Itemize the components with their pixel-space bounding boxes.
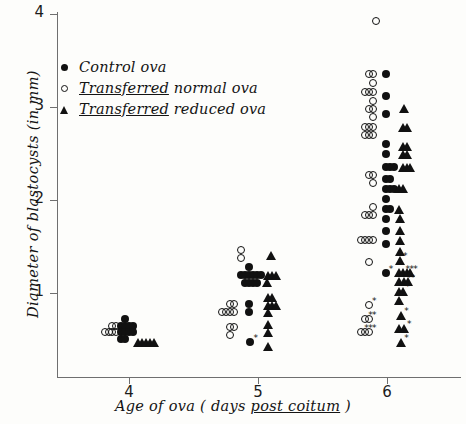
open-circle-point	[369, 131, 377, 139]
filled-triangle-point	[394, 205, 404, 214]
filled-triangle-point	[402, 150, 412, 159]
filled-circle-point	[390, 163, 398, 171]
filled-circle-point	[382, 150, 390, 158]
filled-circle-point	[382, 215, 390, 223]
open-circle-point	[369, 179, 377, 187]
filled-circle-point	[382, 240, 390, 248]
filled-triangle-point	[263, 328, 273, 337]
y-axis-title: Diameter of blastocysts (in mm)	[25, 69, 41, 319]
filled-triangle-point	[399, 104, 409, 113]
x-axis-title-post: )	[340, 398, 351, 414]
open-circle-point	[369, 97, 377, 105]
open-circle-point	[372, 17, 380, 25]
filled-circle-point	[382, 195, 390, 203]
open-circle-point	[369, 105, 377, 113]
legend: Control ova Transferred normal ova Trans…	[58, 56, 266, 119]
legend-label-control-ova: Control ova	[79, 59, 167, 75]
legend-label-transferred-reduced-ova: Transferred reduced ova	[79, 101, 266, 117]
open-circle-point	[226, 331, 234, 339]
legend-item-transferred-normal-ova: Transferred normal ova	[58, 77, 266, 98]
y-tick-label-4: 4	[22, 5, 44, 20]
y-tick-1	[50, 293, 57, 294]
filled-circle-point	[386, 205, 394, 213]
filled-circle-point	[245, 300, 253, 308]
filled-circle-point	[253, 279, 261, 287]
filled-triangle-point	[395, 226, 405, 235]
open-circle-point	[369, 203, 377, 211]
legend-item-transferred-reduced-ova: Transferred reduced ova	[58, 98, 266, 119]
filled-circle-icon	[58, 60, 72, 74]
asterisk-marker: *	[372, 324, 377, 333]
filled-circle-point	[129, 328, 137, 336]
filled-triangle-point	[395, 236, 405, 245]
asterisk-marker: *	[406, 283, 411, 292]
legend-label-transferred-normal-ova: Transferred normal ova	[79, 80, 258, 96]
filled-triangle-point	[405, 163, 415, 172]
y-tick-2	[50, 200, 57, 201]
open-circle-point	[237, 254, 245, 262]
asterisk-marker: *	[403, 252, 408, 261]
asterisk-marker: *	[372, 311, 377, 320]
asterisk-marker: *	[253, 334, 258, 343]
open-circle-point	[230, 300, 238, 308]
filled-circle-point	[382, 227, 390, 235]
filled-circle-point	[245, 263, 253, 271]
filled-triangle-point	[395, 214, 405, 223]
x-axis-title-pre: Age of ova ( days	[115, 398, 251, 414]
open-circle-point	[369, 211, 377, 219]
filled-triangle-point	[149, 338, 159, 347]
y-tick-3	[50, 107, 57, 108]
filled-circle-point	[382, 92, 390, 100]
legend-item-control-ova: Control ova	[58, 56, 266, 77]
filled-triangle-point	[402, 123, 412, 132]
asterisk-marker: *	[411, 274, 416, 283]
x-axis-title: Age of ova ( days post coitum )	[0, 398, 466, 414]
asterisk-marker: *	[404, 307, 409, 316]
filled-triangle-point	[262, 278, 272, 287]
filled-triangle-point	[266, 251, 276, 260]
open-circle-point	[369, 236, 377, 244]
open-circle-point	[369, 171, 377, 179]
filled-circle-point	[382, 70, 390, 78]
open-circle-point	[369, 79, 377, 87]
open-circle-point	[369, 113, 377, 121]
filled-triangle-point	[271, 271, 281, 280]
open-circle-point	[369, 123, 377, 131]
asterisk-marker: *	[407, 320, 412, 329]
open-circle-point	[369, 88, 377, 96]
filled-triangle-icon	[58, 102, 72, 116]
open-circle-point	[365, 258, 373, 266]
x-axis-title-underlined: post coitum	[251, 398, 341, 414]
filled-circle-point	[382, 140, 390, 148]
asterisk-marker: *	[404, 334, 409, 343]
open-circle-point	[369, 70, 377, 78]
filled-circle-point	[245, 308, 253, 316]
filled-circle-point	[382, 110, 390, 118]
filled-circle-point	[386, 175, 394, 183]
asterisk-marker: *	[372, 297, 377, 306]
filled-triangle-point	[263, 342, 273, 351]
open-circle-point	[230, 308, 238, 316]
scatter-plot-figure: 1234 456 Diameter of blastocysts (in mm)…	[0, 0, 466, 424]
asterisk-marker: *	[389, 265, 394, 274]
filled-circle-point	[121, 335, 129, 343]
filled-triangle-point	[263, 308, 273, 317]
filled-triangle-point	[398, 184, 408, 193]
open-circle-icon	[58, 81, 72, 95]
y-tick-4	[50, 14, 57, 15]
open-circle-point	[237, 246, 245, 254]
asterisk-marker: *	[402, 292, 407, 301]
